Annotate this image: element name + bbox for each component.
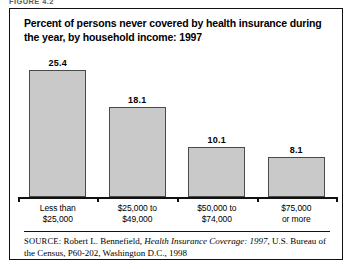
bars-row: 25.4 18.1 10.1 8.1 bbox=[18, 45, 336, 197]
bar-group-less-than-25000: 25.4 bbox=[18, 45, 98, 197]
chart-title: Percent of persons never covered by heal… bbox=[24, 17, 324, 44]
axis-tick bbox=[18, 198, 20, 202]
figure-inner: Percent of persons never covered by heal… bbox=[10, 9, 342, 259]
source-note: SOURCE: Robert L. Bennefield, Health Ins… bbox=[24, 236, 336, 259]
category-label-line: $75,000 bbox=[257, 203, 337, 214]
category-label-75000-or-more: $75,000 or more bbox=[257, 203, 337, 224]
axis-tick bbox=[257, 198, 259, 202]
bar-rect bbox=[29, 70, 86, 197]
bar-rect bbox=[109, 107, 166, 198]
category-label-line: or more bbox=[257, 214, 337, 225]
category-label-less-than-25000: Less than $25,000 bbox=[18, 203, 98, 224]
figure-box: Percent of persons never covered by heal… bbox=[9, 8, 343, 260]
bar-value-label: 8.1 bbox=[290, 145, 303, 156]
category-label-50000-to-74000: $50,000 to $74,000 bbox=[177, 203, 257, 224]
source-author: Robert L. Bennefield, bbox=[64, 236, 142, 246]
bar-rect bbox=[268, 157, 325, 198]
category-label-line: $74,000 bbox=[177, 214, 257, 225]
bar-group-25000-to-49000: 18.1 bbox=[98, 45, 178, 197]
axis-tick bbox=[177, 198, 179, 202]
category-label-line: $25,000 bbox=[18, 214, 98, 225]
bar-group-50000-to-74000: 10.1 bbox=[177, 45, 257, 197]
bar-value-label: 25.4 bbox=[49, 58, 67, 69]
source-work-title: Health Insurance Coverage: 1997 bbox=[144, 236, 267, 246]
category-labels-row: Less than $25,000 $25,000 to $49,000 $50… bbox=[18, 203, 336, 224]
category-label-line: Less than bbox=[18, 203, 98, 214]
axis-tick bbox=[97, 198, 99, 202]
bar-value-label: 10.1 bbox=[208, 135, 226, 146]
category-label-25000-to-49000: $25,000 to $49,000 bbox=[98, 203, 178, 224]
category-label-line: $49,000 bbox=[98, 214, 178, 225]
bar-rect bbox=[188, 147, 245, 198]
figure-caption-cutoff: FIGURE 4.2 bbox=[9, 0, 129, 6]
plot-area: 25.4 18.1 10.1 8.1 bbox=[18, 45, 336, 197]
source-divider bbox=[24, 231, 330, 232]
source-label: SOURCE: bbox=[24, 236, 61, 246]
bar-group-75000-or-more: 8.1 bbox=[257, 45, 337, 197]
category-label-line: $25,000 to bbox=[98, 203, 178, 214]
bar-value-label: 18.1 bbox=[128, 95, 146, 106]
category-label-line: $50,000 to bbox=[177, 203, 257, 214]
axis-tick bbox=[336, 198, 338, 202]
